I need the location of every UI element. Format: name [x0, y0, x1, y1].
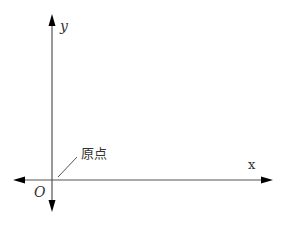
x-axis-left-arrow-icon [13, 177, 25, 184]
y-axis-label: y [59, 18, 69, 34]
x-axis-label: x [248, 157, 256, 172]
y-axis-down-arrow-icon [49, 200, 56, 212]
coordinate-axes-diagram: y x O 原点 [0, 0, 289, 230]
origin-label: O [34, 184, 46, 200]
origin-annotation: 原点 [81, 146, 107, 161]
origin-leader-line [58, 157, 77, 177]
y-axis-up-arrow-icon [49, 14, 56, 26]
x-axis-right-arrow-icon [261, 177, 273, 184]
